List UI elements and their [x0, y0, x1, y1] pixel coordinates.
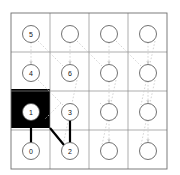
graph-node[interactable]: [140, 143, 157, 160]
node-label: 0: [29, 148, 33, 155]
graph-node[interactable]: 0: [23, 143, 40, 160]
graph-node[interactable]: [101, 104, 118, 121]
grid-graph-svg: 5461302: [0, 0, 180, 175]
graph-node[interactable]: 4: [23, 65, 40, 82]
dotted-edge: [38, 41, 63, 66]
node-circle: [140, 104, 157, 121]
node-label: 3: [68, 109, 72, 116]
dotted-edge: [116, 41, 141, 66]
node-label: 2: [68, 148, 72, 155]
node-label: 6: [68, 70, 72, 77]
graph-node[interactable]: 3: [62, 104, 79, 121]
dotted-edge: [77, 41, 102, 66]
graph-node[interactable]: [101, 26, 118, 43]
node-circle: [101, 65, 118, 82]
diagram-canvas: 5461302: [0, 0, 180, 175]
graph-node[interactable]: 2: [62, 143, 79, 160]
path-edge: [50, 128, 64, 145]
node-label: 5: [29, 31, 33, 38]
node-circle: [140, 143, 157, 160]
graph-node[interactable]: [101, 143, 118, 160]
graph-node[interactable]: [140, 104, 157, 121]
node-circle: [101, 26, 118, 43]
graph-node[interactable]: [101, 65, 118, 82]
node-circle: [140, 65, 157, 82]
graph-node[interactable]: [62, 26, 79, 43]
node-circle: [140, 26, 157, 43]
graph-node[interactable]: 1: [23, 104, 40, 121]
graph-node[interactable]: [140, 26, 157, 43]
graph-node[interactable]: [140, 65, 157, 82]
graph-node[interactable]: 5: [23, 26, 40, 43]
node-circle: [101, 143, 118, 160]
node-label: 1: [29, 109, 33, 116]
node-circle: [62, 26, 79, 43]
graph-node[interactable]: 6: [62, 65, 79, 82]
node-label: 4: [29, 70, 33, 77]
node-circle: [101, 104, 118, 121]
